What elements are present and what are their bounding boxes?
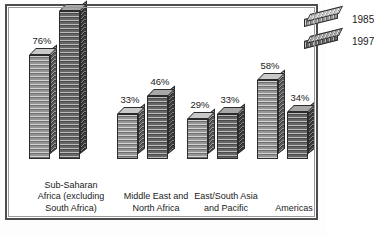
bar-body — [147, 96, 168, 159]
chart-frame: 76%108%Sub-SaharanAfrica (excludingSouth… — [5, 4, 318, 220]
bar-swatch-1985-icon — [304, 15, 344, 28]
bar-swatch-1997-icon — [304, 37, 344, 50]
category-label-line: Sub-Saharan — [19, 180, 123, 192]
bar-group: 33%46%Middle East andNorth Africa — [117, 6, 195, 218]
bar-value-label: 58% — [249, 60, 291, 71]
bar-body — [287, 112, 308, 159]
bar-body — [187, 119, 208, 159]
bar-value-label: 46% — [139, 76, 181, 87]
bar-value-label: 108% — [51, 0, 93, 2]
category-label: Americas — [247, 203, 341, 215]
bar-value-label: 34% — [279, 92, 321, 103]
category-label-line: Americas — [247, 203, 341, 215]
bar-body — [29, 55, 50, 159]
bar-group: 76%108%Sub-SaharanAfrica (excludingSouth… — [29, 6, 113, 218]
bar-value-label: 76% — [21, 35, 63, 46]
legend-label-1985: 1985 — [352, 14, 374, 25]
bar-body — [257, 80, 278, 159]
bar-body — [59, 11, 80, 159]
bar-group: 29%33%East/South Asiaand Pacific — [187, 6, 265, 218]
legend-label-1997: 1997 — [352, 36, 374, 47]
bar-body — [117, 114, 138, 159]
bar-body — [217, 114, 238, 159]
plot-area: 76%108%Sub-SaharanAfrica (excludingSouth… — [7, 6, 316, 218]
bar-value-label: 33% — [209, 94, 251, 105]
bar-value-label: 33% — [109, 94, 151, 105]
